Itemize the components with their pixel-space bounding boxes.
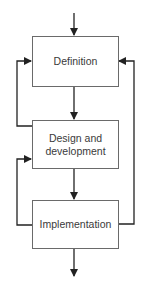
- definition-box: Definition: [32, 36, 119, 87]
- feedback-implementation-to-definition: [118, 61, 134, 224]
- definition-label: Definition: [54, 55, 98, 68]
- feedback-implementation-to-design: [17, 159, 32, 225]
- design-and-development-label: Design and development: [45, 132, 105, 158]
- feedback-design-to-definition: [17, 61, 32, 126]
- implementation-box: Implementation: [32, 200, 119, 249]
- design-and-development-box: Design and development: [32, 120, 119, 169]
- implementation-label: Implementation: [40, 218, 112, 231]
